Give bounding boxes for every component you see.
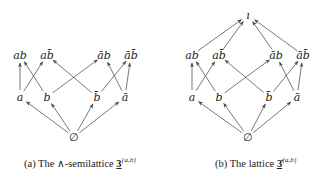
semilattice-node-b: b xyxy=(43,91,50,104)
semilattice-node-abarb: āb xyxy=(97,49,111,62)
lattice-edge-abarbbar-to-top xyxy=(254,20,297,51)
semilattice-edge-bbar-to-abbar xyxy=(53,60,92,92)
lattice-edges xyxy=(192,20,302,133)
semilattice-edge-empty-to-bbar xyxy=(77,104,93,131)
lattice-edge-ab-to-top xyxy=(198,20,242,51)
lattice-edge-empty-to-abar xyxy=(253,102,290,133)
caption-b-text: (b) The lattice xyxy=(215,158,277,169)
semilattice-edges xyxy=(20,60,130,133)
lattice-node-ab: ab xyxy=(185,49,199,62)
semilattice-edge-b-to-abarb xyxy=(53,60,98,93)
semilattice-node-abarbbar: āb̄ xyxy=(124,49,138,62)
semilattice-edge-abar-to-abarbbar xyxy=(126,63,130,90)
hasse-diagrams: abab̄ābāb̄abb̄ā∅ ıabab̄ābāb̄abb̄ā∅ xyxy=(0,0,334,181)
lattice-edge-empty-to-a xyxy=(199,102,243,133)
lattice-edge-b-to-ab xyxy=(196,62,215,91)
lattice-edge-abar-to-abarb xyxy=(280,62,294,91)
semilattice-node-empty: ∅ xyxy=(69,131,79,144)
semilattice-edge-abar-to-abarb xyxy=(108,62,122,91)
lattice-node-bbar: b̄ xyxy=(265,91,272,104)
lattice-edge-a-to-abbar xyxy=(196,62,215,91)
lattice-node-b: b xyxy=(215,91,222,104)
lattice-node-abarb: āb xyxy=(269,49,283,62)
caption-a-superscript: {a,b} xyxy=(122,156,136,164)
semilattice-nodes: abab̄ābāb̄abb̄ā∅ xyxy=(13,49,138,144)
caption-b-superscript: {a,b} xyxy=(282,156,296,164)
caption-a-text: (a) The ∧-semilattice xyxy=(24,158,116,169)
lattice-node-abarbbar: āb̄ xyxy=(296,49,310,62)
semilattice-node-ab: ab xyxy=(13,49,27,62)
semilattice-edge-bbar-to-abarbbar xyxy=(101,61,126,91)
lattice-node-abar: ā xyxy=(294,91,301,104)
semilattice-node-a: a xyxy=(17,91,24,104)
lattice-edge-bbar-to-abbar xyxy=(225,60,264,92)
semilattice-edge-empty-to-a xyxy=(26,102,68,133)
lattice-nodes: ıabab̄ābāb̄abb̄ā∅ xyxy=(185,9,310,144)
caption-lattice: (b) The lattice 3̇{a,b} xyxy=(215,156,297,169)
lattice-edge-empty-to-bbar xyxy=(251,104,265,131)
lattice-edge-bbar-to-abarbbar xyxy=(273,61,298,91)
lattice-node-a: a xyxy=(189,91,196,104)
caption-semilattice: (a) The ∧-semilattice 3{a,b} xyxy=(24,156,136,169)
lattice-edge-abar-to-abarbbar xyxy=(298,63,302,90)
semilattice-edge-b-to-ab xyxy=(24,62,43,91)
lattice-node-top: ı xyxy=(246,9,250,22)
lattice-edge-b-to-abarb xyxy=(225,60,270,93)
semilattice-node-bbar: b̄ xyxy=(93,91,100,104)
semilattice-edge-a-to-abbar xyxy=(24,62,43,91)
lattice-node-abbar: ab̄ xyxy=(212,49,226,62)
semilattice-node-abar: ā xyxy=(122,91,129,104)
lattice-node-empty: ∅ xyxy=(243,131,253,144)
semilattice-node-abbar: ab̄ xyxy=(40,49,54,62)
